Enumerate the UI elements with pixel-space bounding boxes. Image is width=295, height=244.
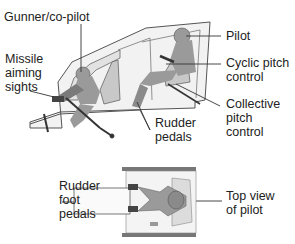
label-foot-pedals-line3: pedals: [59, 207, 96, 221]
label-foot-pedals-line2: foot: [59, 193, 80, 207]
label-collective-line3: control: [226, 125, 264, 139]
label-cyclic-line1: Cyclic pitch: [226, 56, 289, 70]
label-rudder-line2: pedals: [155, 130, 192, 144]
label-missile-line2: aiming: [5, 66, 42, 80]
label-pilot: Pilot: [226, 29, 250, 43]
label-top-view-line2: of pilot: [226, 203, 263, 217]
label-gunner-co-pilot: Gunner/co-pilot: [4, 10, 89, 24]
label-collective-line1: Collective: [226, 97, 280, 111]
label-cyclic-line2: control: [226, 70, 264, 84]
label-missile-line3: sights: [5, 80, 38, 94]
label-foot-pedals-line1: Rudder: [59, 179, 100, 193]
label-top-view-line1: Top view: [226, 189, 275, 203]
label-collective-line2: pitch: [226, 111, 252, 125]
top-view-illustration: [74, 167, 196, 237]
label-missile-line1: Missile: [5, 52, 43, 66]
label-rudder-line1: Rudder: [155, 116, 196, 130]
